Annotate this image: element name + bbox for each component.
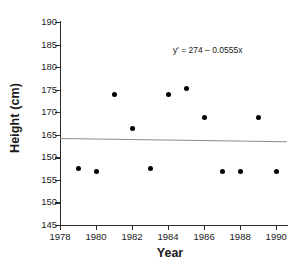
y-axis-title: Height (cm) (0, 0, 30, 235)
y-tick-label: 155 (41, 175, 57, 185)
y-tick-label: 180 (41, 62, 57, 72)
x-tick-mark (204, 225, 205, 230)
data-point (220, 169, 225, 174)
data-point (76, 166, 81, 171)
data-point (112, 92, 117, 97)
data-point (238, 169, 243, 174)
y-tick-label: 150 (41, 153, 57, 163)
scatter-plot-figure: Height (cm) 1901851801751701651501551501… (0, 0, 302, 269)
x-tick-mark (96, 225, 97, 230)
x-axis-line (60, 225, 288, 226)
x-tick-label: 1982 (121, 232, 142, 242)
y-tick-label: 190 (41, 17, 57, 27)
data-point (184, 86, 189, 91)
regression-equation-annotation: y' = 274 – 0.0555x (173, 45, 242, 55)
data-point (94, 169, 99, 174)
x-tick-label: 1980 (85, 232, 106, 242)
data-point (166, 92, 171, 97)
x-tick-mark (60, 225, 61, 230)
data-point (130, 126, 135, 131)
x-tick-mark (132, 225, 133, 230)
y-tick-label: 185 (41, 40, 57, 50)
x-tick-mark (168, 225, 169, 230)
y-axis-title-text: Height (cm) (8, 83, 22, 153)
plot-area: 190185180175170165150155150145 y' = 274 … (60, 22, 287, 225)
trend-line (60, 138, 287, 142)
x-tick-mark (276, 225, 277, 230)
data-point (274, 169, 279, 174)
data-point (148, 166, 153, 171)
x-tick-mark (240, 225, 241, 230)
y-tick-label: 175 (41, 85, 57, 95)
x-tick-label: 1978 (49, 232, 70, 242)
x-tick-label: 1988 (230, 232, 251, 242)
y-tick-label: 170 (41, 107, 57, 117)
data-point (256, 115, 261, 120)
y-tick-label: 150 (41, 198, 57, 208)
x-tick-label: 1986 (194, 232, 215, 242)
x-axis-title: Year (50, 246, 290, 260)
data-point (202, 115, 207, 120)
y-tick-label: 145 (41, 220, 57, 230)
x-tick-label: 1990 (266, 232, 287, 242)
y-tick-label: 165 (41, 130, 57, 140)
x-tick-label: 1984 (158, 232, 179, 242)
